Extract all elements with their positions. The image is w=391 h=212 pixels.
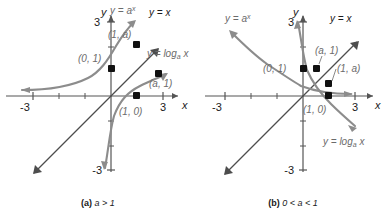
panel-a-caption-label: (a): [81, 198, 92, 208]
panel-b-exp-label-main: y = a: [224, 13, 247, 24]
panel-a-log-label-tail: x: [181, 48, 190, 59]
panel-a-ytick-3: 3: [94, 16, 100, 28]
panel-a-xtick-3: 3: [160, 101, 166, 113]
panel-a: -3 3 3 -3 x y y = ax y = x y = loga x: [0, 0, 196, 212]
panel-b-exponential-label: y = ax: [224, 13, 251, 24]
panel-a-caption-expr: a > 1: [95, 198, 115, 208]
panel-a-logarithm-label: y = loga x: [146, 48, 189, 60]
panel-a-point-label-1-a: (1, a): [108, 29, 131, 40]
panel-a-point-label-a-1: (a, 1): [149, 78, 172, 89]
point-0-1-marker: [108, 65, 115, 72]
panel-a-x-axis: [6, 92, 178, 100]
panel-a-identity-label: y = x: [148, 7, 171, 18]
svg-text:y = loga x: y = loga x: [322, 136, 365, 148]
panel-b-xtick-3: 3: [352, 101, 358, 113]
point-1-0-marker: [133, 92, 140, 99]
panel-b-exponential-curve: [229, 30, 353, 97]
svg-text:y = ax: y = ax: [224, 13, 251, 24]
panel-a-plot: -3 3 3 -3 x y y = ax y = x y = loga x: [0, 0, 196, 182]
panel-a-identity-label-text: y = x: [148, 7, 171, 18]
panel-b-caption-expr: 0 < a < 1: [282, 198, 318, 208]
panel-b-identity-label: y = x: [329, 13, 352, 24]
panel-b-point-label-1-a: (1, a): [337, 63, 360, 74]
svg-text:y = loga x: y = loga x: [146, 48, 189, 60]
point-1-a-marker: [133, 41, 140, 48]
svg-text:y = ax: y = ax: [109, 5, 136, 16]
panel-a-point-label-1-0: (1, 0): [119, 106, 142, 117]
panel-a-exponential-label: y = ax: [109, 5, 136, 16]
panel-b-leader-1-a: [332, 69, 336, 81]
panel-b-plot: -3 3 3 -3 x y y = ax y = x y = loga x: [195, 0, 391, 182]
panel-a-ytick-neg3: -3: [92, 164, 102, 176]
panel-a-point-label-0-1: (0, 1): [78, 53, 101, 64]
panel-a-caption: (a) a > 1: [0, 198, 196, 208]
panel-b-point-label-1-0: (1, 0): [303, 104, 326, 115]
panel-a-x-axis-label: x: [181, 99, 188, 111]
panel-b-caption: (b) 0 < a < 1: [195, 198, 391, 208]
panel-a-exp-label-main: y = a: [109, 5, 132, 16]
panel-b-x-axis-label: x: [374, 99, 381, 111]
point-a-1-marker: [313, 65, 320, 72]
panel-b-leader-a-1: [319, 56, 322, 64]
panel-b-y-axis-label: y: [292, 6, 300, 18]
panel-b-point-label-0-1: (0, 1): [263, 63, 286, 74]
point-0-1-marker: [300, 65, 307, 72]
panel-b-exp-label-sup: x: [246, 13, 251, 20]
panel-a-log-label-main: y = log: [146, 48, 177, 59]
panel-b-identity-label-text: y = x: [329, 13, 352, 24]
panel-b-log-label-main: y = log: [322, 136, 353, 147]
panel-a-xtick-neg3: -3: [20, 101, 30, 113]
panel-b-point-label-a-1: (a, 1): [315, 45, 338, 56]
point-1-0-marker: [325, 92, 332, 99]
point-1-a-marker: [325, 80, 332, 87]
panel-b: -3 3 3 -3 x y y = ax y = x y = loga x: [195, 0, 391, 212]
point-a-1-marker: [155, 70, 162, 77]
panel-b-caption-label: (b): [268, 198, 280, 208]
panel-b-identity-line: [224, 41, 359, 175]
panel-b-xtick-neg3: -3: [212, 101, 222, 113]
panel-b-logarithm-label: y = loga x: [322, 136, 365, 148]
figure-container: -3 3 3 -3 x y y = ax y = x y = loga x: [0, 0, 391, 212]
panel-a-y-axis-label: y: [100, 6, 108, 18]
panel-b-ytick-neg3: -3: [284, 164, 294, 176]
panel-b-log-label-tail: x: [357, 136, 366, 147]
panel-a-exp-label-sup: x: [131, 5, 136, 12]
